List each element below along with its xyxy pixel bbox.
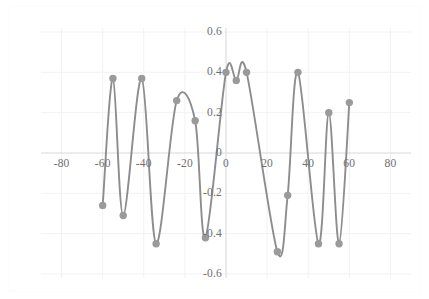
y-tick-label: 0.4 bbox=[207, 67, 222, 79]
x-tick-label: 0 bbox=[223, 158, 229, 170]
y-tick-label: -0.6 bbox=[203, 268, 222, 280]
chart-plot-area bbox=[0, 0, 429, 299]
y-tick-label: -0.2 bbox=[203, 188, 222, 200]
x-tick-label: -40 bbox=[136, 158, 152, 170]
x-tick-label: -60 bbox=[95, 158, 111, 170]
y-tick-label: -0.4 bbox=[203, 228, 222, 240]
y-tick-label: 0.2 bbox=[207, 107, 222, 119]
y-tick-label: 0.6 bbox=[207, 26, 222, 38]
x-tick-label: 60 bbox=[343, 158, 355, 170]
x-tick-label: 80 bbox=[384, 158, 396, 170]
chart-container: -80-60-40-20020406080 -0.6-0.4-0.200.20.… bbox=[0, 0, 429, 299]
x-tick-label: -80 bbox=[54, 158, 70, 170]
x-tick-label: -20 bbox=[177, 158, 193, 170]
x-tick-label: 40 bbox=[302, 158, 314, 170]
y-tick-label: 0 bbox=[216, 147, 222, 159]
x-tick-label: 20 bbox=[261, 158, 273, 170]
